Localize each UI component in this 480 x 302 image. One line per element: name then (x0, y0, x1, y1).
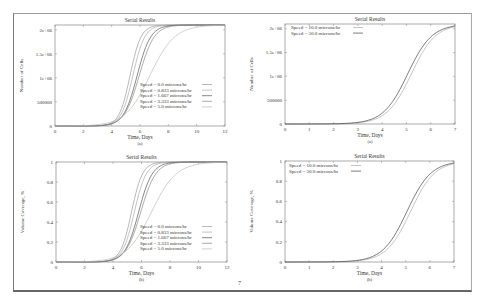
y-axis-label: Number of Cells (249, 57, 254, 90)
x-axis-label: Time, Days (357, 132, 382, 138)
x-tick-label: 0 (284, 127, 287, 132)
chart-c: Serial Results0123456705000001e+061.5e+0… (249, 16, 457, 144)
x-tick-label: 0 (54, 129, 57, 134)
legend-label: Speed = 10.0 microns/hr (289, 163, 339, 168)
legend-label: Speed = 1.667 microns/hr (140, 93, 192, 98)
series-line (55, 25, 225, 126)
chart-b: Serial Results02468101200.20.40.60.81Tim… (20, 154, 230, 282)
x-tick-label: 8 (167, 129, 170, 134)
legend-label: Speed = 1.667 microns/hr (140, 235, 192, 240)
chart-a: Serial Results02468101205000001e+061.5e+… (19, 17, 228, 146)
legend-label: Speed = 50.0 microns/hr (291, 31, 341, 36)
legend-label: Speed = 50.0 microns/hr (289, 169, 339, 174)
plot-area (55, 25, 225, 126)
x-tick-label: 7 (454, 127, 457, 132)
y-tick-label: 0.4 (47, 220, 54, 225)
y-tick-label: 1 (280, 159, 283, 164)
x-tick-label: 7 (453, 265, 456, 270)
figure-caption: (a) (138, 141, 143, 146)
plot-area (285, 24, 455, 124)
figure-caption: (b) (367, 277, 373, 282)
y-tick-label: 0.6 (47, 200, 54, 205)
y-tick-label: 0.4 (276, 219, 283, 224)
legend-label: Speed = 3.333 microns/hr (140, 99, 192, 104)
series-line (285, 163, 454, 262)
legend-label: Speed = 5.0 microns/hr (140, 246, 187, 251)
series-line (55, 25, 225, 126)
legend-label: Speed = 3.333 microns/hr (140, 241, 192, 246)
x-tick-label: 12 (223, 129, 229, 134)
legend-label: Speed = 0.833 microns/hr (140, 230, 192, 235)
series-line (55, 25, 225, 126)
y-tick-label: 0.2 (47, 240, 54, 245)
y-tick-label: 2e+06 (39, 28, 52, 33)
legend-label: Speed = 5.0 microns/hr (140, 104, 187, 109)
x-tick-label: 12 (225, 265, 231, 270)
page-number: 7 (238, 280, 241, 286)
x-tick-label: 1 (308, 265, 311, 270)
series-line (285, 26, 455, 124)
x-tick-label: 0 (55, 265, 58, 270)
x-tick-label: 8 (169, 265, 172, 270)
y-tick-label: 500000 (37, 100, 53, 105)
x-tick-label: 2 (332, 265, 335, 270)
y-tick-label: 0.6 (276, 199, 283, 204)
x-axis-label: Time, Days (129, 270, 154, 276)
legend-label: Speed = 0.0 microns/hr (140, 82, 187, 87)
legend-label: Speed = 0.833 microns/hr (140, 88, 192, 93)
x-tick-label: 10 (196, 265, 202, 270)
series-line (285, 27, 455, 124)
chart-title: Serial Results (355, 16, 385, 22)
x-tick-label: 2 (332, 127, 335, 132)
y-tick-label: 1.5e+06 (266, 50, 283, 55)
y-axis-label: Volume Coverage, % (249, 190, 255, 233)
chart-d: Serial Results0123456700.20.40.60.81Time… (249, 153, 456, 282)
charts-canvas: Serial Results02468101205000001e+061.5e+… (0, 0, 480, 302)
y-tick-label: 0.8 (47, 180, 54, 185)
y-tick-label: 1.5e+06 (36, 52, 53, 57)
y-axis-label: Volume Coverage, % (20, 191, 26, 234)
x-tick-label: 6 (429, 127, 432, 132)
x-tick-label: 4 (112, 265, 115, 270)
series-line (55, 25, 225, 126)
series-line (285, 164, 454, 262)
x-tick-label: 2 (82, 129, 85, 134)
x-axis-label: Time, Days (127, 134, 152, 140)
y-tick-label: 1e+06 (269, 74, 282, 79)
x-axis-label: Time, Days (357, 270, 382, 276)
x-tick-label: 10 (194, 129, 200, 134)
legend-label: Speed = 0.0 microns/hr (140, 224, 187, 229)
figure-caption: (a) (368, 139, 373, 144)
x-tick-label: 0 (284, 265, 287, 270)
y-tick-label: 1 (51, 160, 54, 165)
figure-caption: (b) (139, 277, 145, 282)
chart-title: Serial Results (125, 17, 155, 23)
y-tick-label: 500000 (267, 98, 283, 103)
y-tick-label: 0 (51, 260, 54, 265)
chart-title: Serial Results (126, 154, 156, 160)
series-line (55, 25, 225, 126)
y-tick-label: 0 (280, 260, 283, 265)
chart-title: Serial Results (354, 153, 384, 159)
x-tick-label: 1 (308, 127, 311, 132)
y-tick-label: 2e+06 (269, 26, 282, 31)
x-tick-label: 6 (429, 265, 432, 270)
y-axis-label: Number of Cells (19, 59, 24, 92)
y-tick-label: 1e+06 (39, 76, 52, 81)
x-tick-label: 4 (110, 129, 113, 134)
y-tick-label: 0.2 (276, 240, 283, 245)
y-tick-label: 0.8 (276, 179, 283, 184)
plot-area (285, 161, 454, 262)
x-tick-label: 5 (404, 265, 407, 270)
x-tick-label: 2 (83, 265, 86, 270)
y-tick-label: 0 (280, 122, 283, 127)
y-tick-label: 0 (50, 124, 53, 129)
legend-label: Speed = 10.0 microns/hr (291, 25, 341, 30)
x-tick-label: 5 (405, 127, 408, 132)
